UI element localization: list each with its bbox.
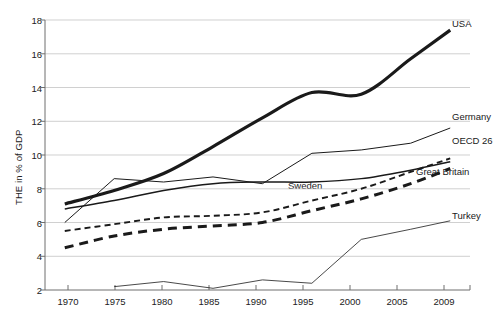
series-path-turkey xyxy=(114,221,450,289)
series-path-great-britain xyxy=(65,158,450,231)
line-chart: THE in % of GDP 18 16 14 12 10 8 6 4 2 1… xyxy=(0,0,503,323)
x-tick-marks xyxy=(68,285,470,290)
series-path-sweden xyxy=(65,169,450,248)
series-path-oecd-26 xyxy=(65,162,450,209)
series-paths xyxy=(65,30,450,288)
series-path-germany xyxy=(65,128,450,223)
chart-canvas xyxy=(0,0,503,323)
y-tick-marks xyxy=(40,20,45,290)
gridlines xyxy=(45,20,470,256)
